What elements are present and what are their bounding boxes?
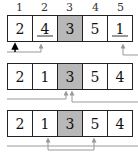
pointer-arrows	[0, 0, 138, 153]
row3-arrows	[7, 140, 138, 150]
row2-arrows	[7, 93, 138, 102]
row1-arrows	[7, 46, 138, 55]
